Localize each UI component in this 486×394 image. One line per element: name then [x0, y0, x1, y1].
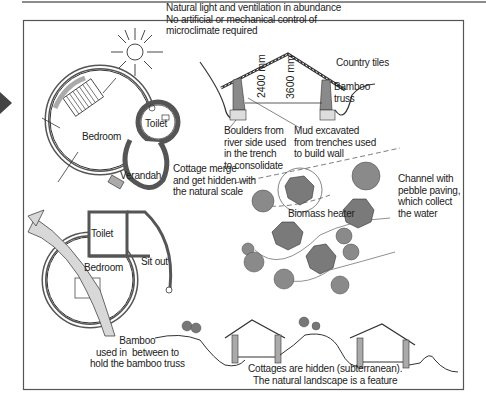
country-tiles-label: Country tiles [336, 57, 389, 69]
dimension-3600: 3600 mm [284, 55, 296, 99]
room-toilet-bottom: Toilet [91, 228, 113, 240]
room-sit-out: Sit out [141, 256, 168, 268]
room-verandah: Verandah [120, 170, 161, 182]
dimension-2400: 2400 mm [255, 54, 267, 98]
room-bedroom-top: Bedroom [82, 131, 121, 143]
natural-light-note: Natural light and ventilation in abundan… [166, 2, 341, 37]
mud-label: Mud excavated from trenches used to buil… [294, 125, 376, 160]
channel-label: Channel with pebble paving, which collec… [398, 173, 460, 219]
bamboo-truss-label: Bamboo truss [334, 81, 370, 104]
cottage-merge-label: Cottage merge and get hidden with the na… [173, 163, 256, 198]
room-bedroom-bottom: Bedroom [84, 262, 123, 274]
bamboo-between-label: Bamboo used in between to hold the bambo… [90, 335, 185, 370]
biomass-heater-label: Biomass heater [288, 208, 355, 220]
pointer-arrow-icon [0, 92, 12, 114]
cottages-hidden-caption: Cottages are hidden (subterranean). The … [248, 363, 402, 386]
room-toilet-top: Toilet [145, 118, 167, 130]
